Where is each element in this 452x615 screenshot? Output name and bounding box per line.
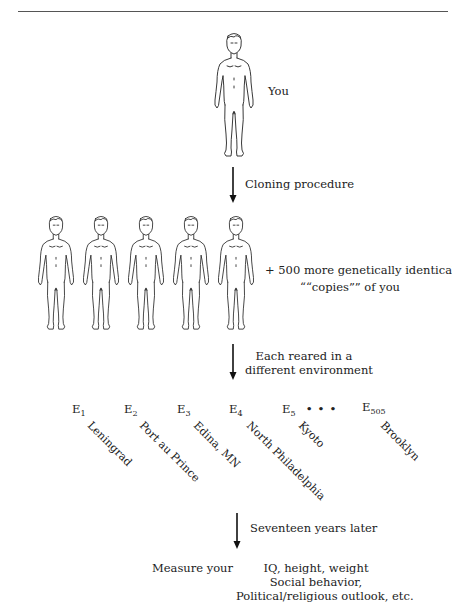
measure-line-2: Social behavior, [236, 575, 396, 589]
city-edina-mn: Edina, MN [191, 419, 243, 471]
top-rule [18, 11, 448, 12]
measure-line-1: IQ, height, weight [236, 561, 396, 575]
person-icon [33, 208, 79, 338]
original-person-figure [209, 30, 259, 160]
cloning-procedure-label: Cloning procedure [245, 177, 354, 191]
down-arrow-icon [228, 344, 238, 384]
person-icon [78, 208, 124, 338]
rearing-caption: Each reared in a different environment [245, 349, 363, 377]
environment-e2: E2 [124, 402, 138, 418]
clone-figure-5 [213, 208, 259, 338]
rearing-caption-line-2: different environment [245, 363, 363, 377]
clone-figure-3 [123, 208, 169, 338]
measure-prefix: Measure your [152, 561, 233, 575]
measure-list: IQ, height, weight Social behavior, Poli… [236, 561, 396, 603]
environment-e5: E5 [282, 402, 296, 418]
ellipsis: • • • [306, 403, 337, 414]
person-icon [209, 30, 259, 160]
person-icon [168, 208, 214, 338]
person-icon [213, 208, 259, 338]
city-brooklyn: Brooklyn [378, 419, 423, 464]
city-kyoto: Kyoto [296, 419, 327, 450]
city-leningrad: Leningrad [85, 419, 135, 469]
down-arrow-icon [232, 513, 242, 553]
rearing-caption-line-1: Each reared in a [245, 349, 363, 363]
clone-figure-1 [33, 208, 79, 338]
environment-e3: E3 [177, 402, 191, 418]
environment-e1: E1 [72, 402, 86, 418]
environment-e505: E505 [362, 400, 386, 416]
original-label: You [268, 84, 289, 98]
seventeen-years-label: Seventeen years later [250, 521, 377, 535]
clones-caption-line-2: ““copies”” of you [265, 280, 435, 294]
down-arrow-icon [228, 167, 238, 207]
person-icon [123, 208, 169, 338]
clone-figure-2 [78, 208, 124, 338]
environment-e4: E4 [229, 402, 243, 418]
clone-figure-4 [168, 208, 214, 338]
clones-caption: + 500 more genetically identical ““copie… [265, 263, 435, 294]
clones-caption-line-1: + 500 more genetically identical [265, 263, 435, 277]
measure-line-3: Political/religious outlook, etc. [236, 589, 396, 603]
